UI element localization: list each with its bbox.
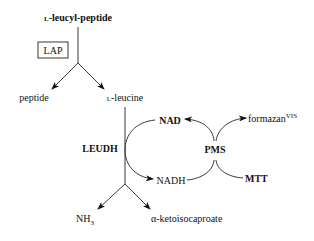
product-nh3: NH3 [76,213,94,227]
product-ketoisocaproate: α-ketoisocaproate [151,213,223,224]
pathway-diagram: L-leucyl-peptide LAP peptide L-leucine L… [0,0,314,241]
arc-nadh-to-pms [187,160,214,180]
arc-pms-to-nad [185,119,214,141]
arrow-to-ketoisocaproate [125,184,150,209]
enzyme-leudh: LEUDH [82,143,118,154]
cofactor-nad: NAD [159,115,181,126]
mediator-pms: PMS [204,144,226,155]
substrate-label: L-leucyl-peptide [44,12,113,23]
arc-mtt-to-pms [216,160,243,178]
dye-mtt: MTT [245,173,268,184]
dye-formazan: formazanVIS [248,112,297,124]
arc-nadh-out [125,150,153,179]
arc-nad-in [125,120,155,150]
product-leucine: L-leucine [107,92,144,103]
arrow-to-nh3 [98,184,125,209]
arc-pms-to-formazan [216,118,246,141]
cofactor-nadh: NADH [157,175,186,186]
arrow-to-peptide [52,63,78,89]
product-peptide: peptide [19,92,49,103]
enzyme-lap: LAP [44,45,63,56]
arrow-to-leucine [78,63,104,89]
